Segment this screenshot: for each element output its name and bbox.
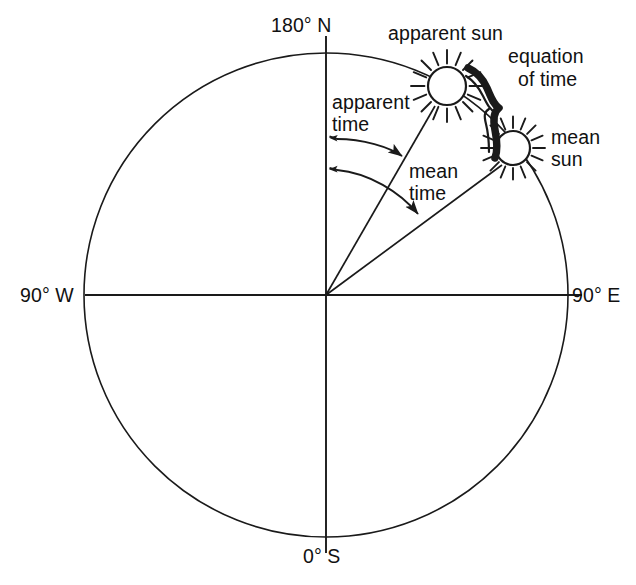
label-east: 90° E [572, 284, 620, 307]
label-mean-sun-line1: mean [551, 126, 600, 149]
label-mean-sun-line2: sun [551, 148, 583, 171]
label-west: 90° W [20, 284, 74, 307]
equation-of-time-diagram: 180° N 0° S 90° W 90° E apparent sun mea… [0, 0, 636, 585]
label-south: 0° S [303, 545, 340, 568]
label-apparent-sun: apparent sun [388, 22, 503, 45]
label-mean-time-line2: time [409, 182, 446, 205]
label-equation-of-time-line1: equation [508, 45, 584, 68]
label-apparent-time-line2: time [332, 113, 369, 136]
apparent-sun-icon [411, 50, 483, 122]
mean-time-arc-group [329, 166, 418, 214]
label-mean-time-line1: mean [409, 160, 458, 183]
label-equation-of-time-line2: of time [518, 68, 577, 91]
apparent-time-arc-group [329, 135, 402, 156]
label-apparent-time-line1: apparent [332, 91, 410, 114]
equation-of-time-brace [466, 68, 499, 158]
label-north: 180° N [271, 14, 331, 37]
